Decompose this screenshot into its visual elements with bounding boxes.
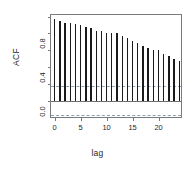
acf-bar [173,59,174,100]
acf-bar [147,48,148,101]
acf-bar [96,31,97,101]
y-axis-tick-label: 0.0 [38,106,47,116]
acf-bar [54,19,55,100]
confidence-bound-line-lower [51,115,181,116]
acf-bar [122,36,123,101]
acf-bar [70,23,71,101]
acf-bar [142,46,143,101]
x-axis-tick [159,117,160,121]
x-axis-tick-label: 15 [128,123,136,132]
acf-plot: ACF lag 0.00.40.8 05101520 [0,0,195,169]
acf-bar [163,54,164,101]
x-axis-tick-label: 0 [53,123,57,132]
y-axis-tick [48,50,51,51]
y-axis-tick [48,84,51,85]
y-axis-tick [48,33,51,34]
x-axis-tick-label: 5 [79,123,83,132]
acf-bar [101,31,102,101]
x-axis-tick [133,117,134,121]
x-axis-tick [81,117,82,121]
acf-bar [106,33,107,101]
acf-bar [153,50,154,100]
zero-reference-line [51,101,181,102]
y-axis-tick [48,67,51,68]
acf-bar [158,50,159,100]
plot-frame: 0.00.40.8 05101520 [50,14,182,118]
acf-bar [80,25,81,100]
acf-bar [59,21,60,101]
acf-bar [90,28,91,100]
acf-bar [168,56,169,100]
y-axis-tick-label: 0.8 [38,39,47,49]
y-axis-tick-label: 0.4 [38,72,47,82]
acf-bar [116,33,117,100]
x-axis-title-text: lag [91,148,103,158]
acf-bar [85,27,86,101]
acf-bar [137,43,138,101]
x-axis-tick-label: 10 [102,123,110,132]
x-axis-tick [55,117,56,121]
acf-bar [64,23,65,101]
acf-bar [132,41,133,101]
x-axis-tick [107,117,108,121]
plot-canvas [51,15,181,117]
y-axis-tick [48,101,51,102]
y-axis-tick [48,17,51,18]
y-axis-title: ACF [11,48,21,66]
x-axis-tick-label: 20 [154,123,162,132]
x-axis-title: lag [0,148,195,158]
acf-bar [179,61,180,100]
acf-bar [127,38,128,100]
acf-bar [75,24,76,100]
acf-bar [111,33,112,100]
